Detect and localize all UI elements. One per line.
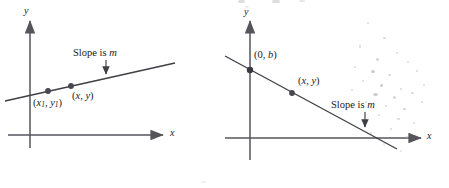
slope-annotation-label: Slope is m [331,100,375,111]
slope-annotation-label: Slope is m [73,48,117,59]
point-slope-panel: y x (x1, y1) (x, y) Slope is m [0,0,225,188]
y-axis-label: y [24,6,28,16]
y-axis-label: y [244,7,248,17]
slope-intercept-graph [225,0,449,188]
point-slope-graph [0,0,225,188]
slope-annotation-symbol: m [367,99,375,110]
point-marker-x1y1 [45,88,51,94]
x-axis-label: x [170,128,174,138]
figure-root: y x (x1, y1) (x, y) Slope is m [0,0,449,188]
point-label-0b: (0, b) [254,50,277,61]
point-marker-xy [68,83,74,89]
x-axis-label: x [427,131,431,141]
slope-intercept-panel: y x (0, b) (x, y) Slope is m [225,0,449,188]
point-marker-xy [289,90,295,96]
point-marker-0b [247,67,253,73]
slope-annotation-symbol: m [109,47,117,58]
point-label-xy: (x, y) [72,91,94,102]
point-label-x1y1: (x1, y1) [33,98,62,109]
slope-annotation-prefix: Slope is [331,99,367,110]
slope-annotation-prefix: Slope is [73,47,109,58]
point-label-xy: (x, y) [298,76,320,87]
